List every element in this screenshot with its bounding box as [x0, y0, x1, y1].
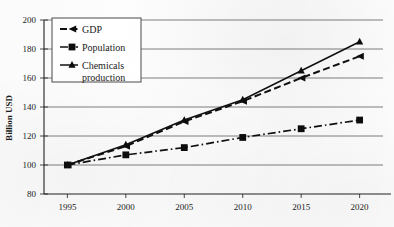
y-tick-label-100: 100 — [23, 160, 37, 170]
data-point-population-2020 — [356, 117, 363, 124]
chart-figure: 80100120140160180200 1995200020052010201… — [0, 0, 394, 227]
y-axis-tick-labels: 80100120140160180200 — [23, 15, 37, 199]
square-marker-icon — [69, 44, 76, 51]
y-tick-label-140: 140 — [23, 102, 37, 112]
data-point-chemicals-production-2020 — [356, 38, 363, 45]
line-chart-canvas: 80100120140160180200 1995200020052010201… — [0, 0, 394, 227]
x-tick-label-2015: 2015 — [292, 202, 311, 212]
chart-legend: GDPPopulationChemicalsproduction — [52, 18, 141, 83]
legend-label-1: Population — [82, 42, 125, 53]
x-tick-label-2005: 2005 — [175, 202, 194, 212]
x-axis-tick-labels: 199520002005201020152020 — [58, 202, 369, 212]
legend-label-2: Chemicals — [82, 60, 124, 71]
legend-label-0: GDP — [82, 24, 102, 35]
data-point-gdp-2020 — [356, 53, 364, 60]
data-point-population-2010 — [239, 134, 246, 141]
data-point-population-2000 — [122, 151, 129, 158]
legend-label-2-line2: production — [82, 72, 125, 83]
x-tick-label-2000: 2000 — [117, 202, 136, 212]
data-point-population-2005 — [181, 144, 188, 151]
series-line-1 — [67, 120, 359, 165]
y-tick-label-80: 80 — [27, 189, 37, 199]
x-tick-label-2010: 2010 — [234, 202, 253, 212]
data-point-gdp-2015 — [298, 74, 306, 81]
y-tick-label-120: 120 — [23, 131, 37, 141]
x-tick-label-2020: 2020 — [351, 202, 370, 212]
y-tick-label-160: 160 — [23, 73, 37, 83]
series-population — [64, 117, 363, 169]
y-axis-title: Billion USD — [4, 95, 14, 141]
y-tick-label-180: 180 — [23, 44, 37, 54]
y-tick-label-200: 200 — [23, 15, 37, 25]
x-tick-label-1995: 1995 — [58, 202, 77, 212]
data-point-population-2015 — [298, 125, 305, 132]
